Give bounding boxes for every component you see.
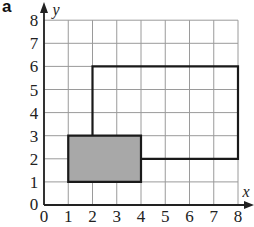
x-axis-arrow-icon [244,201,254,209]
x-axis-label: x [241,183,249,200]
y-tick-label: 0 [30,195,39,214]
y-axis-label: y [50,1,60,19]
x-tick-label: 6 [185,207,194,226]
shaded-rectangle [68,136,141,182]
x-tick-label: 7 [210,207,219,226]
x-tick-label: 3 [113,207,122,226]
y-axis-arrow-icon [40,2,48,13]
y-tick-label: 7 [30,34,39,53]
x-tick-label: 4 [137,207,146,226]
x-tick-label: 8 [234,207,243,226]
x-tick-label: 0 [40,207,49,226]
y-tick-label: 5 [30,81,39,100]
x-tick-label: 2 [88,207,97,226]
y-tick-label: 4 [30,104,39,123]
x-tick-label: 1 [64,207,73,226]
y-tick-label: 1 [30,173,39,192]
y-tick-label: 3 [30,127,39,146]
y-tick-label: 6 [30,57,39,76]
coordinate-plot: 012345678012345678xy [0,0,254,227]
y-tick-label: 8 [30,11,39,30]
panel-label: a [2,0,11,17]
x-tick-label: 5 [161,207,170,226]
y-tick-label: 2 [30,150,39,169]
coordinate-grid-figure: a 012345678012345678xy [0,0,254,227]
